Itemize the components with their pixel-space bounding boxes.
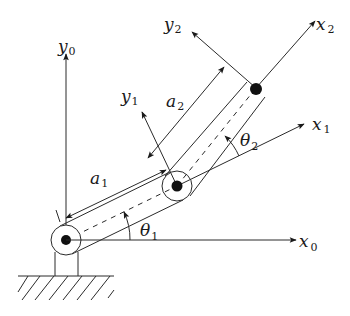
label-theta2: θ2	[240, 130, 258, 153]
label-a2: a2	[166, 91, 184, 113]
frame-2-axes	[192, 21, 315, 88]
base-pedestal	[55, 252, 78, 276]
x2-axis	[256, 21, 315, 88]
dimension-a1	[56, 170, 166, 222]
angle-theta1	[124, 212, 130, 240]
label-y2: y2	[163, 14, 182, 36]
manipulator-diagram: x0 y0 x1 y1 x2 y2 a1 a2 θ1 θ2	[0, 0, 350, 316]
y1-axis	[142, 112, 177, 186]
label-x0: x0	[299, 231, 318, 254]
label-x2: x2	[316, 14, 335, 36]
angle-theta2	[225, 136, 239, 156]
base-joint	[51, 225, 81, 255]
label-a1: a1	[90, 168, 108, 190]
label-x1: x1	[312, 114, 331, 136]
end-effector	[250, 83, 262, 95]
elbow-joint	[162, 171, 192, 201]
ground-hatch	[18, 276, 114, 300]
label-y1: y1	[120, 86, 139, 108]
dimension-a2	[148, 67, 224, 158]
label-y0: y0	[57, 36, 76, 58]
label-theta1: θ1	[140, 220, 158, 243]
y2-axis	[192, 32, 256, 88]
